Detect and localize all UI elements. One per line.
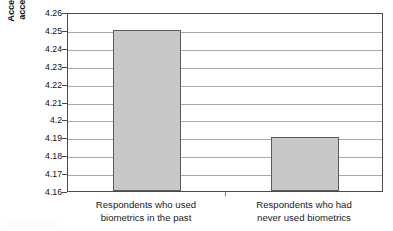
y-axis-title-line-1: Acceptability rating (1=not at all (6, 0, 18, 22)
bar (113, 30, 181, 191)
bar (271, 137, 339, 191)
y-axis-tick-label: 4.16 (28, 188, 62, 197)
x-axis-tick-mark (225, 192, 226, 196)
y-axis-tick-label: 4.17 (28, 170, 62, 179)
x-category-0-line-2: biometrics in the past (67, 211, 225, 224)
y-axis-tick-labels: 4.264.254.244.234.224.214.24.194.184.174… (28, 13, 62, 192)
y-axis-tick-label: 4.26 (28, 9, 62, 18)
x-category-1-line-1: Respondents who had (225, 198, 383, 211)
bar-chart-figure: Acceptability rating (1=not at all accep… (0, 0, 393, 231)
bars-layer (68, 14, 382, 191)
x-category-label-1: Respondents who had never used biometric… (225, 197, 383, 229)
x-category-0-line-1: Respondents who used (67, 198, 225, 211)
y-axis-tick-label: 4.2 (28, 116, 62, 125)
x-category-1-line-2: never used biometrics (225, 211, 383, 224)
y-axis-tick-label: 4.18 (28, 152, 62, 161)
plot-area (67, 13, 383, 192)
x-axis-category-labels: Respondents who used biometrics in the p… (67, 197, 383, 229)
y-axis-tick-label: 4.23 (28, 62, 62, 71)
x-category-label-0: Respondents who used biometrics in the p… (67, 197, 225, 229)
y-axis-tick-label: 4.22 (28, 80, 62, 89)
y-axis-tick-label: 4.19 (28, 134, 62, 143)
y-axis-tick-label: 4.21 (28, 98, 62, 107)
y-axis-title-line-2: acceptable, 5=very acceptable) (17, 0, 29, 22)
y-axis-tick-label: 4.24 (28, 44, 62, 53)
y-axis-tick-label: 4.25 (28, 26, 62, 35)
scan-artifact (4, 219, 62, 228)
